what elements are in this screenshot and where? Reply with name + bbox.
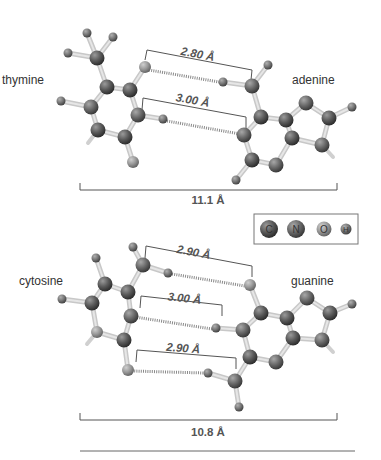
atom-o (122, 364, 134, 376)
guanine-bonds (208, 285, 352, 407)
guanine-label: guanine (291, 274, 334, 288)
base-pair-diagram: 2.80 Å3.00 Å2.90 Å3.00 Å2.90 Å thymine a… (0, 0, 381, 460)
atom-h (212, 324, 221, 333)
atom-h (64, 49, 73, 58)
atom-n (245, 79, 260, 94)
thymine-label: thymine (2, 73, 44, 87)
atom-h (129, 243, 138, 252)
atom-n (237, 128, 252, 143)
atom-o (139, 61, 151, 73)
svg-text:C: C (265, 224, 272, 235)
atom-n (315, 138, 330, 153)
thymine-bonds (61, 33, 163, 162)
hydrogen-bond-4: 3.00 Å (135, 290, 222, 329)
legend-hydrogen-icon: H (341, 224, 352, 235)
atom-c (254, 110, 269, 125)
hbond-distance-label: 3.00 Å (167, 290, 202, 306)
svg-text:O: O (320, 224, 328, 235)
atom-c (322, 111, 337, 126)
atom-h (348, 103, 357, 112)
atom-n (299, 96, 314, 111)
legend: C N O H (254, 214, 358, 244)
atom-c (280, 311, 295, 326)
atom-h (58, 295, 67, 304)
legend-oxygen-icon: O (317, 222, 332, 237)
atom-c (90, 51, 105, 66)
legend-carbon-icon: C (260, 220, 278, 238)
total-width-bracket-bottom (80, 413, 337, 420)
atom-h (92, 254, 101, 263)
atom-n (136, 258, 151, 273)
atom-n (236, 323, 251, 338)
atom-n (228, 374, 243, 389)
atom-n (269, 355, 284, 370)
atom-c (85, 296, 100, 311)
atom-c (117, 333, 132, 348)
atom-n (84, 100, 99, 115)
atom-c (123, 83, 138, 98)
svg-text:H: H (343, 225, 349, 234)
atom-h (164, 269, 173, 278)
thymine-molecule (57, 29, 168, 169)
adenine-molecule (219, 61, 357, 185)
hbond-distance-label: 2.80 Å (179, 45, 216, 63)
hydrogen-bond-5: 2.90 Å (132, 341, 236, 373)
atom-h (348, 300, 357, 309)
atom-c (254, 306, 269, 321)
atom-o (244, 279, 256, 291)
atom-c (121, 285, 136, 300)
atom-n (124, 309, 139, 324)
hbond-distance-label: 2.90 Å (175, 243, 212, 261)
atom-c (98, 277, 113, 292)
hydrogen-bonds-layer: 2.80 Å3.00 Å2.90 Å3.00 Å2.90 Å (132, 45, 252, 373)
atom-c (323, 306, 338, 321)
atom-o (91, 326, 103, 338)
atom-c (279, 113, 294, 128)
atom-c (285, 131, 300, 146)
atom-c (286, 331, 301, 346)
atom-c (243, 350, 258, 365)
atom-h (219, 78, 228, 87)
total-width-bracket-top (80, 183, 337, 190)
hydrogen-bond-1: 2.80 Å (145, 45, 252, 82)
atom-h (232, 176, 241, 185)
atom-o (127, 156, 139, 168)
atom-c (245, 153, 260, 168)
atom-n (315, 333, 330, 348)
atom-n (300, 291, 315, 306)
svg-text:N: N (292, 224, 299, 235)
atom-h (264, 61, 273, 70)
atom-h (109, 33, 118, 42)
atom-h (159, 115, 168, 124)
adenine-label: adenine (292, 73, 335, 87)
guanine-molecule (204, 279, 357, 412)
atom-h (204, 369, 213, 378)
cytosine-label: cytosine (19, 274, 63, 288)
atom-n (269, 158, 284, 173)
atom-h (235, 403, 244, 412)
hydrogen-bond-3: 2.90 Å (145, 243, 252, 286)
atom-c (100, 80, 115, 95)
atom-h (57, 97, 66, 106)
atom-c (118, 130, 133, 145)
total-distance-bottom: 10.8 Å (191, 426, 225, 438)
total-distance-top: 11.1 Å (191, 194, 224, 206)
atom-h (83, 29, 92, 38)
cytosine-molecule (58, 243, 173, 377)
hbond-distance-label: 3.00 Å (175, 91, 211, 109)
hydrogen-bond-2: 3.00 Å (142, 91, 246, 134)
legend-nitrogen-icon: N (287, 220, 305, 238)
atom-n (131, 108, 146, 123)
atom-c (91, 123, 106, 138)
